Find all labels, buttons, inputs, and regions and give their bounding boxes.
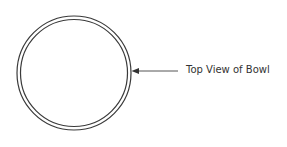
arrowhead-icon (132, 68, 140, 74)
bowl-inner-rim (21, 20, 128, 127)
bowl-outer-rim (17, 16, 131, 130)
bowl-label: Top View of Bowl (186, 64, 270, 75)
